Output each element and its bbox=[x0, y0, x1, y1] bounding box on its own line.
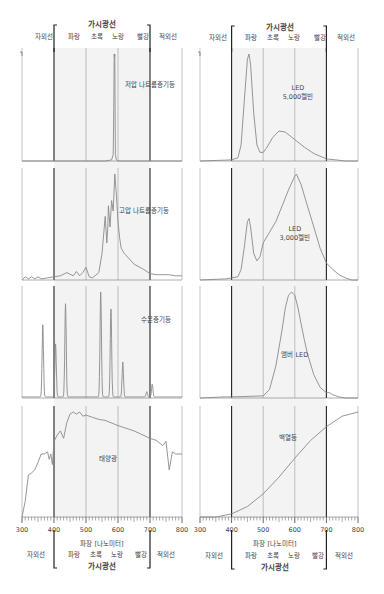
axis-tick-label: 300 bbox=[194, 526, 206, 534]
axis-tick-label: 500 bbox=[80, 526, 92, 534]
spectrum-label: LED bbox=[288, 225, 301, 233]
axis-tick-label: 800 bbox=[176, 526, 188, 534]
spectrum-label: LED bbox=[292, 84, 305, 92]
visible-bracket bbox=[54, 25, 57, 52]
visible-bracket bbox=[147, 25, 150, 52]
visible-bracket bbox=[147, 530, 150, 568]
spectrum-label: 수은증기등 bbox=[141, 315, 171, 324]
visible-range-shade bbox=[54, 48, 150, 518]
spectrum-label: 백열등 bbox=[279, 433, 297, 442]
spectrum-label: 태양광 bbox=[99, 455, 117, 463]
light-spectra-chart: 저압 나트륨증기등LED5,000켈빈고압 나트륨증기등LED3,000켈빈수은… bbox=[0, 0, 384, 594]
axis-tick-label: 500 bbox=[257, 526, 269, 534]
axis-tick-label: 300 bbox=[16, 526, 28, 534]
spectrum-label: 고압 나트륨증기등 bbox=[119, 206, 169, 215]
visible-bracket bbox=[54, 530, 57, 568]
panel-corner-mark bbox=[198, 52, 200, 56]
axis-tick-label: 800 bbox=[352, 526, 364, 534]
axis-tick-label: 600 bbox=[112, 526, 124, 534]
axis-tick-label: 600 bbox=[289, 526, 301, 534]
visible-range-shade bbox=[232, 48, 327, 518]
spectrum-label: 3,000켈빈 bbox=[279, 233, 310, 242]
visible-bracket bbox=[323, 530, 326, 569]
spectrum-label: 5,000켈빈 bbox=[283, 92, 314, 101]
spectrum-label: 저압 나트륨증기등 bbox=[125, 80, 175, 89]
panel-corner-mark bbox=[20, 52, 22, 56]
spectrum-label: 앰버 LED bbox=[281, 350, 308, 359]
visible-bracket bbox=[232, 530, 235, 569]
